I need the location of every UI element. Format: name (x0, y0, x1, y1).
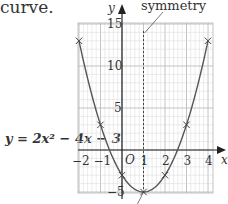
symmetry-leader (145, 12, 164, 33)
x-tick-label: 3 (184, 154, 192, 168)
x-tick-label: 1 (141, 154, 149, 168)
x-tick-label: 4 (205, 154, 213, 168)
origin-label: O (125, 153, 135, 167)
y-axis-arrow-icon (118, 4, 126, 14)
parabola-chart: yxO−2−1123415105−5 (0, 0, 228, 204)
x-axis-label: x (221, 153, 228, 167)
y-tick-label: 5 (114, 101, 122, 115)
y-tick-label: 10 (107, 59, 122, 73)
x-tick-label: −1 (94, 154, 112, 168)
y-tick-label: 15 (107, 17, 122, 31)
x-tick-label: −2 (72, 154, 90, 168)
x-tick-label: 2 (162, 154, 170, 168)
vertex-leader (138, 192, 144, 204)
y-axis-label: y (107, 1, 115, 15)
y-tick-label: −5 (107, 185, 125, 199)
parabola-figure: curve. symmetry y = 2x² − 4x − 3 yxO−2−1… (0, 0, 228, 204)
